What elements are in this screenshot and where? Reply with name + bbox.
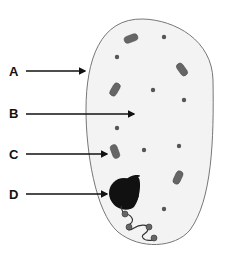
cell-membrane — [86, 19, 213, 245]
svg-text:C: C — [9, 147, 19, 162]
svg-text:A: A — [9, 64, 19, 79]
cell-diagram: A B C D — [0, 0, 228, 261]
label-D: D — [9, 187, 107, 202]
nucleus-body — [109, 178, 139, 208]
label-A: A — [9, 64, 85, 79]
svg-text:B: B — [9, 106, 18, 121]
svg-text:D: D — [9, 187, 18, 202]
